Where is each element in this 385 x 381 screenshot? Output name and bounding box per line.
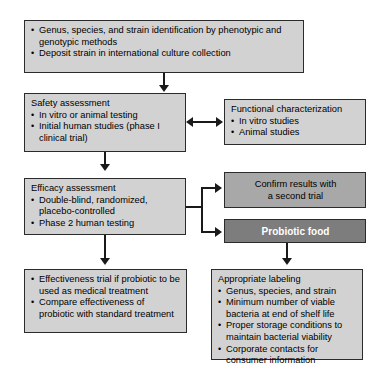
connector-efficacy-branch-riser — [201, 187, 203, 233]
node-line: Probiotic food — [231, 226, 360, 238]
safety-list: In vitro or animal testing Initial human… — [31, 110, 180, 145]
list-item: Deposit strain in international culture … — [31, 48, 298, 60]
list-item: In vitro or animal testing — [31, 110, 180, 122]
list-item: Double-blind, randomized, placebo-contro… — [31, 195, 180, 218]
node-line: a second trial — [231, 191, 360, 203]
list-item: In vitro studies — [231, 116, 360, 128]
arrow-down-icon — [159, 85, 169, 92]
list-item: Phase 2 human testing — [31, 218, 180, 230]
node-appropriate-labeling: Appropriate labeling Genus, species, and… — [211, 269, 363, 360]
node-line: Confirm results with — [231, 179, 360, 191]
list-item: Genus, species, and strain identificatio… — [31, 25, 298, 48]
arrow-down-icon — [100, 164, 110, 171]
list-item: Minimum number of viable bacteria at end… — [218, 297, 357, 320]
node-efficacy-assessment: Efficacy assessment Double-blind, random… — [24, 178, 186, 235]
arrow-right-icon — [215, 227, 222, 237]
list-item: Initial human studies (phase I clinical … — [31, 121, 180, 144]
node-safety-assessment: Safety assessment In vitro or animal tes… — [24, 93, 186, 152]
arrow-right-icon — [215, 183, 222, 193]
connector-safety-functional — [192, 121, 217, 123]
node-header: Safety assessment — [31, 98, 180, 110]
labeling-list: Genus, species, and strain Minimum numbe… — [218, 286, 357, 367]
connector-efficacy-effectiveness — [104, 235, 106, 260]
node-identification: Genus, species, and strain identificatio… — [24, 20, 304, 73]
arrow-right-icon — [216, 117, 223, 127]
list-item: Effectiveness trial if probiotic to be u… — [31, 274, 181, 297]
list-item: Corporate contacts for consumer informat… — [218, 344, 357, 367]
list-item: Proper storage conditions to maintain ba… — [218, 320, 357, 343]
node-confirm-results: Confirm results with a second trial — [224, 172, 366, 208]
node-header: Functional characterization — [231, 104, 360, 116]
arrow-left-icon — [186, 117, 193, 127]
node-effectiveness-trial: Effectiveness trial if probiotic to be u… — [24, 269, 187, 333]
efficacy-list: Double-blind, randomized, placebo-contro… — [31, 195, 180, 230]
functional-list: In vitro studies Animal studies — [231, 116, 360, 139]
identification-list: Genus, species, and strain identificatio… — [31, 25, 298, 60]
list-item: Genus, species, and strain — [218, 286, 357, 298]
effectiveness-list: Effectiveness trial if probiotic to be u… — [31, 274, 181, 320]
flowchart-canvas: Genus, species, and strain identificatio… — [0, 0, 385, 381]
arrow-down-icon — [282, 258, 292, 265]
node-functional-characterization: Functional characterization In vitro stu… — [224, 99, 366, 145]
list-item: Compare effectiveness of probiotic with … — [31, 297, 181, 320]
node-probiotic-food: Probiotic food — [224, 219, 366, 243]
node-header: Appropriate labeling — [218, 274, 357, 286]
arrow-down-icon — [100, 258, 110, 265]
list-item: Animal studies — [231, 127, 360, 139]
node-header: Efficacy assessment — [31, 183, 180, 195]
